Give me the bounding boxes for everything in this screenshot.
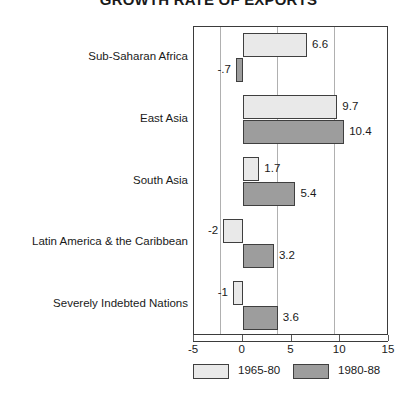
bar bbox=[223, 219, 243, 243]
chart-title: GROWTH RATE OF EXPORTS bbox=[0, 0, 417, 8]
x-axis-tick-label: 10 bbox=[333, 344, 346, 356]
bar bbox=[236, 58, 243, 82]
bar-value-label: -1 bbox=[218, 287, 228, 299]
legend-swatch-icon-1965-80 bbox=[193, 364, 229, 379]
bar bbox=[243, 306, 278, 330]
bar-value-label: -2 bbox=[208, 225, 218, 237]
category-label: Sub-Saharan Africa bbox=[0, 51, 188, 63]
category-label: Latin America & the Caribbean bbox=[0, 236, 188, 248]
category-label: Severely Indebted Nations bbox=[0, 298, 188, 310]
x-axis-tick bbox=[339, 335, 340, 341]
bar bbox=[243, 157, 260, 181]
chart-legend: 1965-80 1980-88 bbox=[193, 362, 388, 384]
bar-value-label: 3.2 bbox=[279, 250, 295, 262]
bar bbox=[243, 182, 296, 206]
x-axis-tick-label: 0 bbox=[239, 344, 245, 356]
bar-value-label: 6.6 bbox=[312, 39, 328, 51]
legend-label-1965-80: 1965-80 bbox=[238, 365, 280, 377]
x-axis-tick-label: 15 bbox=[382, 344, 395, 356]
x-axis-tick bbox=[291, 335, 292, 341]
x-axis-tick-label: 5 bbox=[287, 344, 293, 356]
x-axis-tick bbox=[388, 335, 389, 341]
bar bbox=[243, 244, 274, 268]
x-axis-tick bbox=[242, 335, 243, 341]
x-axis-tick bbox=[193, 335, 194, 341]
bar bbox=[243, 33, 307, 57]
bar-value-label: 10.4 bbox=[349, 126, 371, 138]
bar-value-label: 9.7 bbox=[342, 101, 358, 113]
bar-value-label: 5.4 bbox=[300, 188, 316, 200]
plot-area: 6.6-.79.710.41.75.4-23.2-13.6 bbox=[193, 26, 388, 335]
category-label: East Asia bbox=[0, 113, 188, 125]
gridline-10 bbox=[334, 27, 335, 334]
bar-value-label: 3.6 bbox=[283, 312, 299, 324]
chart-root: GROWTH RATE OF EXPORTS 6.6-.79.710.41.75… bbox=[0, 0, 417, 395]
legend-swatch-icon-1980-88 bbox=[293, 364, 329, 379]
category-label: South Asia bbox=[0, 175, 188, 187]
bar bbox=[243, 95, 338, 119]
bar bbox=[233, 281, 243, 305]
gridline-5 bbox=[277, 27, 278, 334]
legend-label-1980-88: 1980-88 bbox=[338, 365, 380, 377]
legend-item-1980-88[interactable]: 1980-88 bbox=[293, 362, 380, 380]
bar bbox=[243, 120, 344, 144]
legend-item-1965-80[interactable]: 1965-80 bbox=[193, 362, 280, 380]
x-axis-tick-label: -5 bbox=[188, 344, 198, 356]
bar-value-label: -.7 bbox=[218, 64, 231, 76]
bar-value-label: 1.7 bbox=[264, 163, 280, 175]
x-axis-line bbox=[193, 341, 388, 342]
